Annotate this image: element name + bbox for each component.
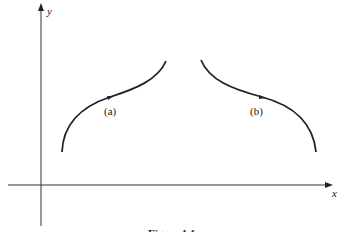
curve-a-arrow-icon bbox=[107, 96, 114, 100]
curve-b-label: (b) bbox=[250, 105, 263, 118]
figure-caption: Figure 1.1 bbox=[148, 227, 195, 232]
diagram-canvas: y x (a) (b) Figure 1.1 bbox=[0, 0, 341, 232]
y-axis-label: y bbox=[46, 5, 52, 17]
curve-a-label: (a) bbox=[104, 105, 117, 118]
y-axis-arrow-icon bbox=[38, 3, 44, 11]
x-axis-label: x bbox=[331, 187, 337, 199]
